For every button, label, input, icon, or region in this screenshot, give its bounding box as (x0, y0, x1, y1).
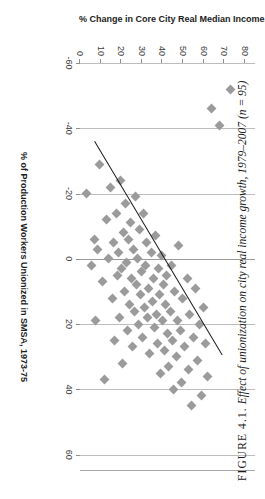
x-axis-tick-mark (203, 59, 204, 63)
y-axis-tick-mark (76, 324, 80, 325)
x-axis-tick-mark (120, 59, 121, 63)
y-axis-tick-label: -40 (64, 122, 74, 135)
y-axis-tick-mark (76, 455, 80, 456)
y-axis-tick-label: 20 (64, 319, 74, 329)
y-axis-tick-mark (76, 63, 80, 64)
x-axis-tick-label: 30 (137, 39, 147, 56)
y-axis-tick-mark (76, 194, 80, 195)
x-axis-tick-label: 20 (116, 39, 126, 56)
x-axis-tick-label: 50 (178, 39, 188, 56)
y-axis-tick-label: 60 (64, 450, 74, 460)
x-axis-tick-mark (223, 59, 224, 63)
y-axis-tick-mark (76, 128, 80, 129)
y-axis-tick-mark (76, 389, 80, 390)
x-axis-tick-mark (161, 59, 162, 63)
x-axis-tick-mark (100, 59, 101, 63)
x-axis-title: % of Production Workers Unionized in SMS… (19, 63, 29, 471)
x-axis-tick-label: 10 (96, 39, 106, 56)
x-axis-tick-label: 0 (75, 39, 85, 56)
figure-caption: FIGURE 4.1. Effect of unionization on ci… (225, 0, 259, 499)
y-axis-tick-label: -20 (64, 187, 74, 200)
y-axis-tick-label: 0 (64, 256, 74, 261)
y-axis-tick-label: 40 (64, 384, 74, 394)
caption-text: Effect of unionization on city real inco… (236, 81, 248, 405)
x-axis-tick-label: 60 (199, 39, 209, 56)
x-axis-tick-label: 40 (157, 39, 167, 56)
y-axis-tick-mark (76, 259, 80, 260)
caption-label: FIGURE 4.1. (236, 407, 248, 481)
y-axis-tick-label: -60 (64, 56, 74, 69)
x-axis-tick-mark (141, 59, 142, 63)
x-axis-tick-mark (182, 59, 183, 63)
